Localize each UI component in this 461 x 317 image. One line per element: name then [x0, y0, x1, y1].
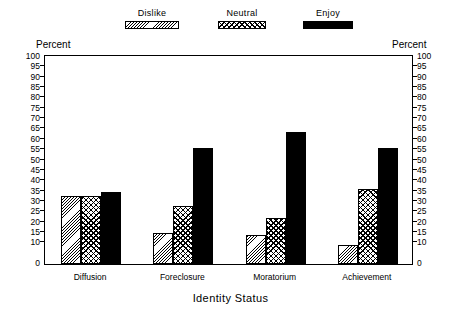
y-tickmark-right-50: [413, 159, 417, 160]
y-tickmark-right-75: [413, 107, 417, 108]
y-tick-label-right-90: 90: [417, 73, 426, 82]
legend-label-neutral: Neutral: [211, 8, 273, 19]
legend-item-neutral: Neutral: [211, 8, 273, 29]
y-tick-label-left-15: 15: [31, 228, 40, 237]
legend-swatch-dislike: [125, 21, 179, 29]
bar-achievement-enjoy: [378, 148, 398, 264]
chart-legend: Dislike Neutral Enjoy: [0, 8, 461, 34]
y-tick-label-right-75: 75: [417, 104, 426, 113]
legend-swatch-enjoy: [303, 21, 353, 29]
y-tickmark-right-15: [413, 231, 417, 232]
y-tick-label-left-50: 50: [31, 156, 40, 165]
y-tick-label-right-95: 95: [417, 62, 426, 71]
y-axis-right: 0101520253035404550556065707580859095100: [417, 55, 445, 265]
bar-foreclosure-dislike: [153, 233, 173, 264]
y-tickmark-right-65: [413, 127, 417, 128]
y-tick-label-right-35: 35: [417, 187, 426, 196]
y-tick-label-left-90: 90: [31, 73, 40, 82]
y-tick-label-left-60: 60: [31, 135, 40, 144]
x-tick-label-diffusion: Diffusion: [44, 272, 136, 282]
y-tick-label-right-85: 85: [417, 83, 426, 92]
y-tick-label-left-20: 20: [31, 218, 40, 227]
legend-label-dislike: Dislike: [121, 8, 183, 19]
y-tickmark-right-30: [413, 200, 417, 201]
y-tick-label-left-85: 85: [31, 83, 40, 92]
x-tick-label-moratorium: Moratorium: [229, 272, 321, 282]
bar-group-diffusion: [61, 56, 121, 264]
y-tick-label-right-20: 20: [417, 218, 426, 227]
y-tick-label-left-55: 55: [31, 145, 40, 154]
y-tick-label-left-100: 100: [26, 52, 40, 61]
bar-diffusion-dislike: [61, 196, 81, 264]
y-tickmark-right-40: [413, 179, 417, 180]
bar-group-moratorium: [246, 56, 306, 264]
y-tick-label-right-70: 70: [417, 114, 426, 123]
y-tick-label-left-35: 35: [31, 187, 40, 196]
bar-group-achievement: [338, 56, 398, 264]
y-axis-label-right: Percent: [392, 39, 426, 50]
y-tick-label-right-80: 80: [417, 93, 426, 102]
legend-item-enjoy: Enjoy: [297, 8, 359, 29]
y-tick-label-right-25: 25: [417, 207, 426, 216]
y-tickmark-right-45: [413, 169, 417, 170]
y-tickmark-right-80: [413, 96, 417, 97]
y-tick-label-left-10: 10: [31, 238, 40, 247]
y-tickmark-right-55: [413, 148, 417, 149]
y-tickmark-right-10: [413, 241, 417, 242]
y-tick-label-left-65: 65: [31, 124, 40, 133]
y-tick-label-left-40: 40: [31, 176, 40, 185]
bar-moratorium-dislike: [246, 235, 266, 264]
bar-diffusion-neutral: [81, 196, 101, 264]
y-tick-label-right-60: 60: [417, 135, 426, 144]
x-tick-label-achievement: Achievement: [321, 272, 413, 282]
x-tick-label-foreclosure: Foreclosure: [136, 272, 228, 282]
y-tick-label-right-0: 0: [417, 259, 422, 268]
y-tick-label-right-10: 10: [417, 238, 426, 247]
y-tickmark-right-35: [413, 190, 417, 191]
y-tick-label-left-70: 70: [31, 114, 40, 123]
y-axis-label-left: Percent: [36, 39, 70, 50]
y-tick-label-right-45: 45: [417, 166, 426, 175]
bar-foreclosure-neutral: [173, 206, 193, 264]
y-tickmark-right-20: [413, 221, 417, 222]
y-tickmark-right-25: [413, 210, 417, 211]
legend-label-enjoy: Enjoy: [297, 8, 359, 19]
y-tick-label-right-55: 55: [417, 145, 426, 154]
plot-area: [44, 55, 413, 265]
y-tick-label-left-95: 95: [31, 62, 40, 71]
bar-moratorium-enjoy: [286, 132, 306, 264]
y-tick-label-right-40: 40: [417, 176, 426, 185]
y-tick-label-left-25: 25: [31, 207, 40, 216]
legend-item-dislike: Dislike: [121, 8, 183, 29]
y-tickmark-right-60: [413, 138, 417, 139]
y-tickmark-right-90: [413, 76, 417, 77]
y-tick-label-right-65: 65: [417, 124, 426, 133]
y-tick-label-right-50: 50: [417, 156, 426, 165]
y-axis-left: 0101520253035404550556065707580859095100: [12, 55, 40, 265]
y-tick-label-left-75: 75: [31, 104, 40, 113]
legend-swatch-neutral: [218, 21, 266, 29]
y-tickmark-right-85: [413, 86, 417, 87]
bar-achievement-neutral: [358, 189, 378, 264]
y-tick-label-right-100: 100: [417, 52, 431, 61]
y-tick-label-right-30: 30: [417, 197, 426, 206]
y-tick-label-left-45: 45: [31, 166, 40, 175]
y-tickmark-right-70: [413, 117, 417, 118]
bar-foreclosure-enjoy: [193, 148, 213, 264]
y-axis-tickmarks-right: [413, 55, 417, 265]
y-tickmark-right-95: [413, 65, 417, 66]
bars-layer: [45, 56, 412, 264]
bar-diffusion-enjoy: [101, 192, 121, 264]
y-tick-label-right-15: 15: [417, 228, 426, 237]
y-tick-label-left-80: 80: [31, 93, 40, 102]
bar-achievement-dislike: [338, 245, 358, 264]
bar-group-foreclosure: [153, 56, 213, 264]
bar-moratorium-neutral: [266, 218, 286, 264]
x-axis-title: Identity Status: [0, 292, 461, 304]
y-tick-label-left-30: 30: [31, 197, 40, 206]
